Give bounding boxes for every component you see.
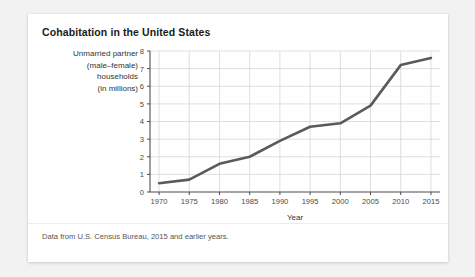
- svg-text:households: households: [97, 72, 138, 81]
- x-axis-tick-labels: 1970197519801985199019952000200520102015: [151, 192, 440, 206]
- svg-text:0: 0: [140, 188, 144, 197]
- svg-text:Unmarried partner: Unmarried partner: [73, 49, 138, 58]
- svg-text:1990: 1990: [271, 197, 288, 206]
- svg-text:(male–female): (male–female): [87, 61, 138, 70]
- svg-text:1980: 1980: [211, 197, 228, 206]
- svg-text:3: 3: [140, 135, 144, 144]
- chart-plot-area: Unmarried partner(male–female)households…: [28, 44, 448, 222]
- chart-card: Cohabitation in the United States Unmarr…: [28, 14, 448, 262]
- svg-text:7: 7: [140, 65, 144, 74]
- svg-text:1975: 1975: [181, 197, 198, 206]
- svg-text:4: 4: [140, 117, 144, 126]
- svg-text:(in millions): (in millions): [98, 84, 139, 93]
- svg-text:5: 5: [140, 100, 144, 109]
- svg-text:2: 2: [140, 153, 144, 162]
- page-title: Cohabitation in the United States: [42, 26, 210, 38]
- y-axis-tick-labels: 012345678: [140, 47, 150, 197]
- svg-text:Year: Year: [287, 213, 304, 222]
- svg-text:2000: 2000: [332, 197, 349, 206]
- data-series-line: [159, 58, 431, 183]
- svg-text:1995: 1995: [302, 197, 319, 206]
- source-note: Data from U.S. Census Bureau, 2015 and e…: [42, 232, 229, 241]
- svg-text:1970: 1970: [151, 197, 168, 206]
- svg-text:6: 6: [140, 82, 144, 91]
- line-chart: Unmarried partner(male–female)households…: [28, 44, 448, 222]
- svg-text:1985: 1985: [241, 197, 258, 206]
- svg-text:2005: 2005: [362, 197, 379, 206]
- svg-text:8: 8: [140, 47, 144, 56]
- y-axis-label: Unmarried partner(male–female)households…: [73, 49, 138, 93]
- footer-divider: [28, 223, 448, 224]
- svg-text:2010: 2010: [392, 197, 409, 206]
- svg-text:1: 1: [140, 170, 144, 179]
- x-axis-title: Year: [287, 213, 304, 222]
- svg-text:2015: 2015: [422, 197, 439, 206]
